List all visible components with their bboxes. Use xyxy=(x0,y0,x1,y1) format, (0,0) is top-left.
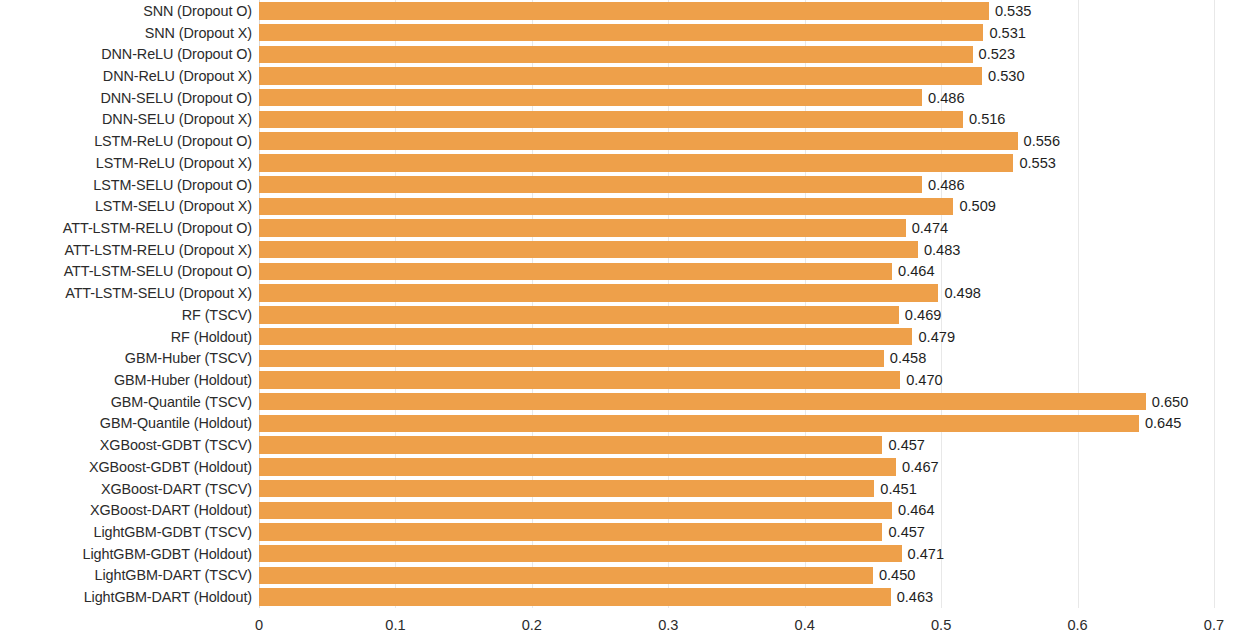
category-label: XGBoost-GDBT (Holdout) xyxy=(0,460,252,474)
bar-value-label: 0.457 xyxy=(882,525,925,540)
bar-row: 0.464 xyxy=(259,502,1214,519)
bar-row: 0.483 xyxy=(259,241,1214,258)
bar-row: 0.556 xyxy=(259,132,1214,149)
x-tick-label: 0.1 xyxy=(385,618,405,633)
bar-row: 0.531 xyxy=(259,24,1214,41)
bar-value-label: 0.458 xyxy=(884,351,927,366)
bar[interactable] xyxy=(259,306,899,323)
bar-row: 0.450 xyxy=(259,567,1214,584)
bar-row: 0.650 xyxy=(259,393,1214,410)
bar[interactable] xyxy=(259,198,953,215)
bar-value-label: 0.464 xyxy=(892,264,935,279)
bar[interactable] xyxy=(259,545,902,562)
bar[interactable] xyxy=(259,2,989,19)
bar[interactable] xyxy=(259,415,1139,432)
category-label: ATT-LSTM-RELU (Dropout O) xyxy=(0,221,252,235)
bar[interactable] xyxy=(259,154,1013,171)
bar-row: 0.457 xyxy=(259,523,1214,540)
bar[interactable] xyxy=(259,176,922,193)
bar[interactable] xyxy=(259,111,963,128)
bar-row: 0.457 xyxy=(259,436,1214,453)
category-label: LSTM-SELU (Dropout X) xyxy=(0,199,252,213)
x-tick-label: 0.7 xyxy=(1204,618,1224,633)
bar-row: 0.486 xyxy=(259,176,1214,193)
bar-value-label: 0.531 xyxy=(983,25,1026,40)
category-label: LightGBM-DART (TSCV) xyxy=(0,568,252,582)
bar[interactable] xyxy=(259,567,873,584)
category-label: RF (TSCV) xyxy=(0,308,252,322)
bar-value-label: 0.474 xyxy=(906,221,949,236)
x-tick-label: 0.4 xyxy=(795,618,815,633)
bar-row: 0.467 xyxy=(259,458,1214,475)
bar-value-label: 0.457 xyxy=(882,438,925,453)
bar-row: 0.451 xyxy=(259,480,1214,497)
bar-value-label: 0.471 xyxy=(902,546,945,561)
x-tick-label: 0 xyxy=(255,618,263,633)
bar-value-label: 0.645 xyxy=(1139,416,1182,431)
bar-row: 0.498 xyxy=(259,284,1214,301)
bar-row: 0.458 xyxy=(259,350,1214,367)
bar[interactable] xyxy=(259,480,874,497)
bar[interactable] xyxy=(259,393,1146,410)
category-label: RF (Holdout) xyxy=(0,330,252,344)
bar-value-label: 0.450 xyxy=(873,568,916,583)
bar[interactable] xyxy=(259,89,922,106)
category-label: DNN-ReLU (Dropout X) xyxy=(0,69,252,83)
bar[interactable] xyxy=(259,328,912,345)
bar[interactable] xyxy=(259,241,918,258)
bar-value-label: 0.483 xyxy=(918,242,961,257)
bar-value-label: 0.498 xyxy=(938,286,981,301)
bar-row: 0.471 xyxy=(259,545,1214,562)
bar-value-label: 0.553 xyxy=(1013,156,1056,171)
category-label: LightGBM-GDBT (Holdout) xyxy=(0,547,252,561)
bar[interactable] xyxy=(259,371,900,388)
bar-value-label: 0.556 xyxy=(1018,134,1061,149)
category-label: SNN (Dropout X) xyxy=(0,26,252,40)
bar[interactable] xyxy=(259,263,892,280)
bar[interactable] xyxy=(259,67,982,84)
bar-row: 0.530 xyxy=(259,67,1214,84)
bar[interactable] xyxy=(259,588,891,605)
category-label: LightGBM-GDBT (TSCV) xyxy=(0,525,252,539)
bar[interactable] xyxy=(259,523,882,540)
category-label: XGBoost-DART (Holdout) xyxy=(0,503,252,517)
bar-value-label: 0.530 xyxy=(982,69,1025,84)
bar-value-label: 0.516 xyxy=(963,112,1006,127)
category-label: GBM-Quantile (TSCV) xyxy=(0,395,252,409)
bar-chart: SNN (Dropout O)SNN (Dropout X)DNN-ReLU (… xyxy=(0,0,1235,641)
bar[interactable] xyxy=(259,350,884,367)
bar[interactable] xyxy=(259,46,973,63)
bar-value-label: 0.509 xyxy=(953,199,996,214)
category-label: ATT-LSTM-SELU (Dropout X) xyxy=(0,286,252,300)
bar[interactable] xyxy=(259,436,882,453)
bar[interactable] xyxy=(259,219,906,236)
bar[interactable] xyxy=(259,458,896,475)
bar-row: 0.463 xyxy=(259,588,1214,605)
bar[interactable] xyxy=(259,24,983,41)
category-label: XGBoost-DART (TSCV) xyxy=(0,482,252,496)
category-label: ATT-LSTM-RELU (Dropout X) xyxy=(0,243,252,257)
bar-row: 0.553 xyxy=(259,154,1214,171)
bar-value-label: 0.486 xyxy=(922,177,965,192)
bar-value-label: 0.467 xyxy=(896,460,939,475)
bar-value-label: 0.463 xyxy=(891,590,934,605)
bar-value-label: 0.535 xyxy=(989,4,1032,19)
bar-row: 0.470 xyxy=(259,371,1214,388)
bar[interactable] xyxy=(259,284,938,301)
bar-value-label: 0.479 xyxy=(912,329,955,344)
category-label: XGBoost-GDBT (TSCV) xyxy=(0,438,252,452)
bar[interactable] xyxy=(259,502,892,519)
x-tick-label: 0.6 xyxy=(1067,618,1087,633)
bar-value-label: 0.469 xyxy=(899,308,942,323)
bar-row: 0.464 xyxy=(259,263,1214,280)
bar-row: 0.474 xyxy=(259,219,1214,236)
bar-row: 0.479 xyxy=(259,328,1214,345)
category-label: LSTM-ReLU (Dropout X) xyxy=(0,156,252,170)
category-label: LSTM-ReLU (Dropout O) xyxy=(0,134,252,148)
x-axis: 00.10.20.30.40.50.60.7 xyxy=(259,608,1214,641)
bar-row: 0.535 xyxy=(259,2,1214,19)
bar-value-label: 0.486 xyxy=(922,90,965,105)
bar-value-label: 0.464 xyxy=(892,503,935,518)
bar[interactable] xyxy=(259,132,1018,149)
category-label: DNN-SELU (Dropout X) xyxy=(0,112,252,126)
